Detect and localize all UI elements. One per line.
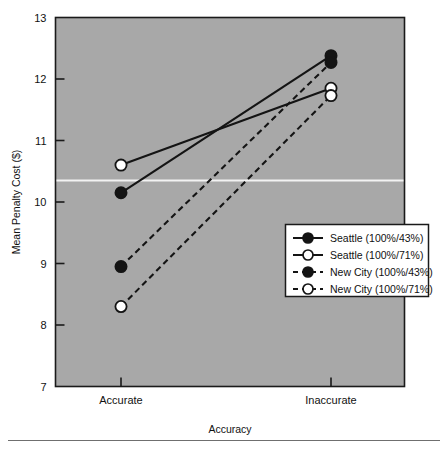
y-tick-label: 11 [35,135,46,147]
legend-marker-sample [303,284,313,294]
y-tick-label: 9 [40,258,46,270]
data-point-marker [115,261,126,272]
x-tick-label-accurate: Accurate [99,394,142,406]
y-tick-label: 8 [40,319,46,331]
data-point-marker [325,57,336,68]
data-point-marker [115,301,126,312]
legend-marker-sample [303,233,313,243]
data-point-marker [325,90,336,101]
x-tick-label-inaccurate: Inaccurate [305,394,356,406]
chart-legend[interactable]: Seattle (100%/43%)Seattle (100%/71%)New … [286,225,433,297]
line-chart-svg: 13121110987 AccurateInaccurate Mean Pena… [0,0,448,449]
legend-item-label[interactable]: New City (100%/43%) [330,266,433,278]
y-axis-title: Mean Penalty Cost ($) [10,150,22,254]
data-point-marker [115,160,126,171]
legend-marker-sample [303,250,313,260]
legend-item-label[interactable]: Seattle (100%/43%) [330,232,423,244]
y-tick-label: 10 [34,196,46,208]
legend-marker-sample [303,267,313,277]
y-axis-tick-labels: 13121110987 [34,12,46,393]
bottom-divider [8,440,440,441]
plot-area-background [56,18,405,387]
legend-item-label[interactable]: Seattle (100%/71%) [330,249,423,261]
y-tick-label: 7 [40,381,46,393]
legend-item-label[interactable]: New City (100%/71%) [330,283,433,295]
x-axis-title: Accuracy [208,423,252,435]
chart-figure: 13121110987 AccurateInaccurate Mean Pena… [0,0,448,449]
data-point-marker [115,187,126,198]
x-axis-tick-labels: AccurateInaccurate [99,394,356,406]
y-tick-label: 12 [34,73,46,85]
y-tick-label: 13 [34,12,46,24]
